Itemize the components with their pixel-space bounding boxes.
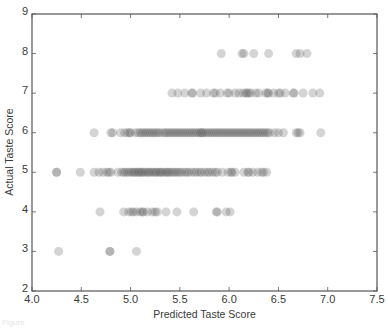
- x-tick-label: 6.5: [271, 293, 286, 305]
- data-point: [105, 247, 114, 256]
- x-tick-label: 6.0: [221, 293, 236, 305]
- data-point: [281, 89, 290, 98]
- data-point: [299, 89, 308, 98]
- y-tick-label: 9: [22, 5, 28, 17]
- x-axis-label: Predicted Taste Score: [153, 308, 256, 320]
- data-point: [162, 207, 171, 216]
- plot-frame: [32, 14, 377, 291]
- x-axis-ticks: 4.04.55.05.56.06.57.07.5: [24, 14, 384, 305]
- y-tick-label: 3: [22, 242, 28, 254]
- data-point: [239, 49, 248, 58]
- y-tick-label: 2: [22, 282, 28, 294]
- y-tick-label: 8: [22, 45, 28, 57]
- data-point: [217, 49, 226, 58]
- data-point: [188, 89, 197, 98]
- data-point: [303, 49, 312, 58]
- data-point: [290, 89, 299, 98]
- data-point: [153, 207, 162, 216]
- x-tick-label: 4.5: [74, 293, 89, 305]
- data-point: [189, 207, 198, 216]
- x-tick-label: 4.0: [24, 293, 39, 305]
- data-point: [108, 128, 117, 137]
- data-point: [231, 168, 240, 177]
- x-tick-label: 7.5: [369, 293, 384, 305]
- y-tick-label: 4: [22, 203, 28, 215]
- data-point: [52, 168, 61, 177]
- data-point: [76, 168, 85, 177]
- x-tick-label: 7.0: [320, 293, 335, 305]
- data-point: [264, 49, 273, 58]
- scatter-chart: 4.04.55.05.56.06.57.07.5 23456789 Predic…: [0, 0, 388, 329]
- data-point: [132, 247, 141, 256]
- data-point: [226, 207, 235, 216]
- y-axis-label: Actual Taste Score: [3, 108, 15, 196]
- data-points: [52, 49, 325, 256]
- data-point: [296, 128, 305, 137]
- x-tick-label: 5.5: [172, 293, 187, 305]
- data-point: [172, 207, 181, 216]
- data-point: [262, 168, 271, 177]
- y-tick-label: 6: [22, 124, 28, 136]
- data-point: [315, 89, 324, 98]
- data-point: [96, 207, 105, 216]
- data-point: [279, 128, 288, 137]
- y-axis-ticks: 23456789: [22, 5, 377, 294]
- data-point: [316, 128, 325, 137]
- y-tick-label: 5: [22, 163, 28, 175]
- figure-caption: Figure: [2, 318, 25, 327]
- data-point: [54, 247, 63, 256]
- data-point: [213, 207, 222, 216]
- data-point: [249, 49, 258, 58]
- y-tick-label: 7: [22, 84, 28, 96]
- x-tick-label: 5.0: [123, 293, 138, 305]
- data-point: [90, 128, 99, 137]
